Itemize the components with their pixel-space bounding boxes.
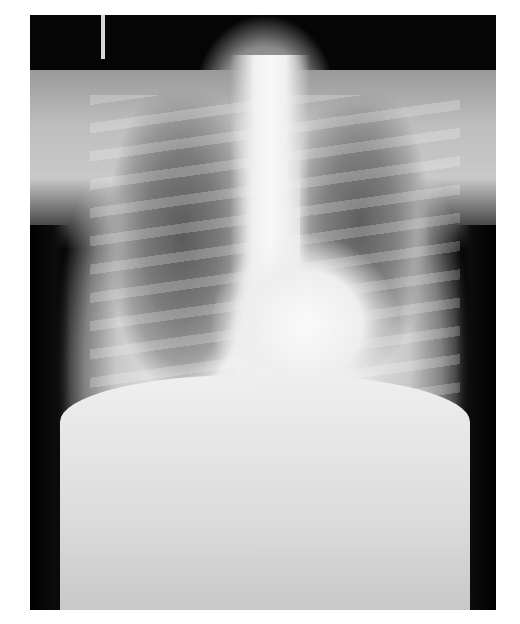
abdomen xyxy=(60,375,470,610)
chest-xray-image xyxy=(30,15,496,610)
vertical-marker xyxy=(101,15,105,59)
